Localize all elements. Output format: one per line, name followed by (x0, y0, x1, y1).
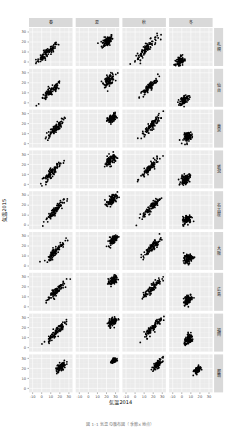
data-point (182, 64, 184, 66)
data-point (154, 168, 156, 170)
data-point (135, 225, 137, 227)
data-point (107, 202, 109, 204)
y-tick-label: 30 (21, 193, 26, 197)
data-point (60, 125, 62, 127)
data-point (116, 157, 118, 159)
data-point (51, 215, 53, 217)
data-point (150, 289, 152, 291)
data-point (111, 319, 113, 321)
data-point (143, 54, 145, 56)
data-point (105, 86, 107, 88)
data-point (155, 244, 157, 246)
data-point (62, 281, 64, 283)
data-point (181, 143, 183, 145)
data-point (188, 339, 190, 341)
data-point (60, 244, 62, 246)
data-point (191, 217, 193, 219)
data-point (109, 198, 111, 200)
data-point (143, 174, 145, 176)
data-point (142, 133, 144, 135)
data-point (62, 287, 64, 289)
data-point (162, 276, 164, 278)
data-point (139, 213, 141, 215)
data-point (188, 140, 190, 142)
data-point (112, 198, 114, 200)
data-point (137, 57, 139, 59)
data-point (48, 341, 50, 343)
data-point (48, 259, 50, 261)
data-point (109, 322, 111, 324)
data-point (58, 123, 60, 125)
data-point (62, 242, 64, 244)
data-point (151, 366, 153, 368)
data-point (106, 77, 108, 79)
column-strip-label: 春 (49, 19, 53, 25)
data-point (156, 283, 158, 285)
data-point (66, 363, 68, 365)
data-point (185, 259, 187, 261)
data-point (189, 95, 191, 97)
data-point (37, 58, 39, 60)
y-tick-label: 30 (21, 71, 26, 75)
y-tick-label: 10 (21, 213, 26, 217)
data-point (104, 166, 106, 168)
data-point (184, 58, 186, 60)
data-point (141, 49, 143, 51)
data-point (111, 276, 113, 278)
data-point (59, 328, 61, 330)
data-point (151, 203, 153, 205)
data-point (50, 252, 52, 254)
data-point (159, 323, 161, 325)
x-tick-label: 20 (151, 395, 156, 399)
data-point (42, 94, 44, 96)
data-point (115, 80, 117, 82)
data-point (111, 157, 113, 159)
data-point (154, 322, 156, 324)
data-point (61, 324, 63, 326)
x-tick-label: 10 (142, 395, 147, 399)
y-tick-label: 20 (21, 122, 26, 126)
data-point (118, 236, 120, 238)
data-point (60, 204, 62, 206)
data-point (42, 225, 44, 227)
data-point (182, 183, 184, 185)
data-point (140, 138, 142, 140)
data-point (35, 105, 37, 107)
data-point (63, 283, 65, 285)
data-point (153, 83, 155, 85)
data-point (149, 42, 151, 44)
data-point (110, 286, 112, 288)
data-point (190, 131, 192, 133)
data-point (185, 255, 187, 257)
data-point (108, 157, 110, 159)
y-tick-label: 10 (21, 50, 26, 54)
data-point (159, 363, 161, 365)
data-point (184, 97, 186, 99)
data-point (111, 119, 113, 121)
data-point (106, 165, 108, 167)
data-point (56, 367, 58, 369)
data-point (183, 182, 185, 184)
data-point (62, 118, 64, 120)
data-point (55, 89, 57, 91)
data-point (52, 328, 54, 330)
data-point (116, 360, 118, 362)
data-point (157, 37, 159, 39)
data-point (59, 162, 61, 164)
y-tick-label: 0 (24, 264, 27, 268)
column-strip-label: 夏 (95, 19, 99, 25)
data-point (106, 155, 108, 157)
data-point (58, 290, 60, 292)
data-point (189, 297, 191, 299)
data-point (111, 82, 113, 84)
data-point (140, 256, 142, 258)
data-point (156, 246, 158, 248)
data-point (148, 132, 150, 134)
x-tick-label: 10 (189, 395, 194, 399)
data-point (50, 167, 52, 169)
data-point (69, 278, 71, 280)
data-point (145, 51, 147, 53)
data-point (110, 34, 112, 36)
data-point (112, 73, 114, 75)
data-point (51, 289, 53, 291)
